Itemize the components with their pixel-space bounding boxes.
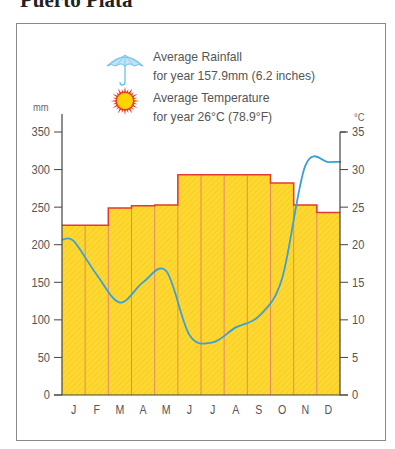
rainfall-bar — [224, 175, 247, 395]
right-tick-label: 30 — [352, 162, 365, 177]
left-tick-label: 350 — [32, 125, 51, 140]
right-tick-label: 10 — [352, 313, 365, 328]
right-tick-label: 20 — [352, 237, 365, 252]
left-tick-label: 0 — [44, 388, 50, 403]
left-tick-label: 50 — [38, 350, 51, 365]
rainfall-bar — [132, 206, 155, 395]
month-label: N — [301, 402, 309, 416]
rainfall-bar — [85, 225, 108, 395]
rainfall-legend-title: Average Rainfall — [153, 48, 242, 66]
month-label: J — [210, 402, 215, 416]
rainfall-bar — [108, 208, 131, 395]
rainfall-bar — [201, 175, 224, 395]
rainfall-bar — [155, 205, 178, 395]
month-label: S — [255, 402, 262, 416]
left-tick-label: 100 — [32, 313, 51, 328]
right-tick-label: 5 — [352, 350, 358, 365]
left-tick-label: 300 — [32, 162, 51, 177]
month-label: J — [71, 402, 76, 416]
left-tick-label: 150 — [32, 275, 51, 290]
sun-icon — [111, 87, 140, 116]
right-tick-label: 25 — [352, 200, 365, 215]
month-label: A — [140, 402, 147, 416]
month-label: M — [115, 402, 124, 416]
left-axis-unit: mm — [33, 101, 49, 113]
rainfall-bar — [294, 205, 317, 395]
temperature-legend-title: Average Temperature — [153, 89, 269, 107]
month-label: O — [278, 402, 286, 416]
umbrella-icon — [107, 55, 143, 85]
left-tick-label: 250 — [32, 200, 51, 215]
month-label: M — [162, 402, 171, 416]
rainfall-bar — [178, 175, 201, 395]
month-label: J — [187, 402, 192, 416]
rainfall-bar — [247, 175, 270, 395]
rainfall-bar — [271, 183, 294, 395]
right-tick-label: 35 — [352, 125, 365, 140]
month-labels: JFMAMJJASOND — [71, 402, 332, 416]
right-tick-label: 15 — [352, 275, 365, 290]
month-label: F — [94, 402, 100, 416]
month-label: D — [325, 402, 333, 416]
month-label: A — [232, 402, 239, 416]
rainfall-bar — [317, 212, 340, 395]
right-tick-label: 0 — [352, 388, 358, 403]
left-tick-label: 200 — [32, 237, 51, 252]
rainfall-legend-sub: for year 157.9mm (6.2 inches) — [153, 67, 315, 85]
right-axis-unit: °C — [354, 111, 364, 123]
temperature-legend-sub: for year 26°C (78.9°F) — [153, 108, 272, 126]
